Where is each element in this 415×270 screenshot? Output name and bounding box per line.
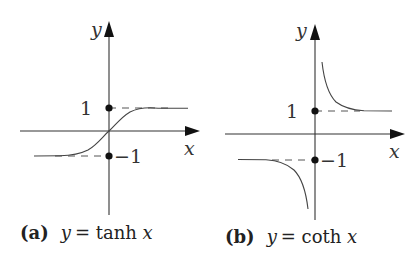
panel-tanh: y x 1 −1 (a) y = tanh x (20, 18, 200, 243)
x-axis-arrow-icon (185, 126, 200, 136)
caption-a: (a) y = tanh x (20, 222, 153, 243)
coth-curve-positive (322, 62, 392, 111)
tanh-curve (34, 108, 188, 156)
tick-label-minus1: −1 (114, 145, 142, 167)
coth-curve-negative (238, 160, 308, 210)
tick-label-1: 1 (80, 97, 92, 119)
y-axis-arrow-icon (310, 24, 320, 40)
hyperbolic-functions-figure: y x 1 −1 (a) y = tanh x y x 1 − (0, 0, 415, 270)
y-axis-arrow-icon (104, 21, 114, 37)
panel-coth: y x 1 −1 (b) y = coth x (225, 19, 405, 247)
tick-label-1: 1 (286, 100, 298, 122)
x-axis-label: x (389, 140, 400, 162)
y-axis-label: y (295, 19, 307, 41)
x-axis-label: x (184, 137, 195, 159)
y-axis-label: y (90, 18, 102, 40)
point-y1 (105, 104, 112, 111)
point-y-minus1 (105, 152, 112, 159)
point-y-minus1 (311, 156, 318, 163)
tick-label-minus1: −1 (320, 149, 348, 171)
x-axis-arrow-icon (390, 129, 405, 139)
point-y1 (311, 107, 318, 114)
caption-b: (b) y = coth x (225, 226, 357, 247)
